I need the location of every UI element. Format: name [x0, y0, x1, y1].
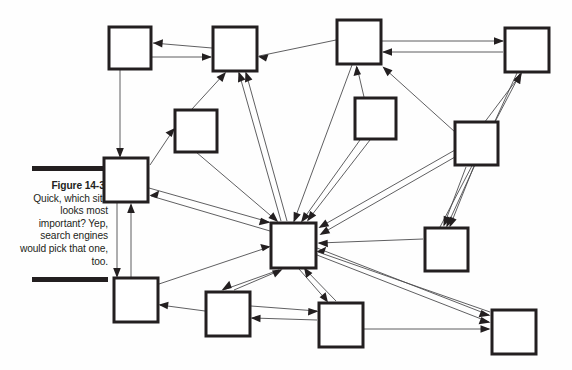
diagram-edges [113, 37, 522, 333]
site-node-hub[interactable] [271, 223, 316, 268]
site-node-n13[interactable] [492, 310, 536, 354]
site-node-n2[interactable] [213, 27, 257, 71]
site-node-n9[interactable] [425, 228, 468, 271]
site-node-n3[interactable] [337, 20, 381, 64]
site-node-n11[interactable] [206, 292, 250, 336]
link-network-diagram [0, 0, 572, 370]
site-node-n6[interactable] [355, 98, 396, 139]
figure-page: Figure 14-3: Quick, which site looks mos… [0, 0, 572, 370]
site-node-n5[interactable] [175, 110, 217, 152]
site-node-n7[interactable] [455, 122, 498, 165]
site-node-n4[interactable] [505, 28, 549, 72]
site-node-n8[interactable] [104, 158, 148, 202]
site-node-n12[interactable] [319, 303, 363, 347]
site-node-n10[interactable] [114, 278, 158, 322]
site-node-n1[interactable] [109, 27, 151, 69]
